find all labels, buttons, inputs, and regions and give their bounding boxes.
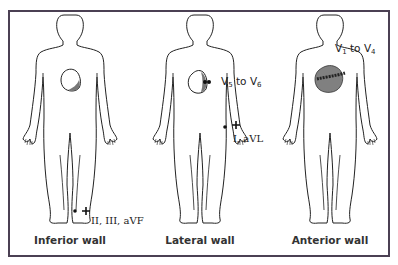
heart-inferior-icon: [61, 69, 80, 91]
caption-lateral: Lateral wall: [165, 234, 234, 246]
chest-lead-label-lateral: V5 to V6: [221, 75, 262, 89]
lead-label-inferior: II, III, aVF: [91, 215, 144, 226]
caption-anterior: Anterior wall: [292, 234, 369, 246]
body-figures-art: [0, 0, 398, 265]
figure-lateral: [153, 15, 247, 223]
chest-lead-label-anterior: V1 to V4: [335, 42, 376, 56]
caption-inferior: Inferior wall: [34, 234, 106, 246]
figure-inferior: [23, 15, 117, 223]
lead-label-lateral: I, aVL: [233, 133, 263, 144]
